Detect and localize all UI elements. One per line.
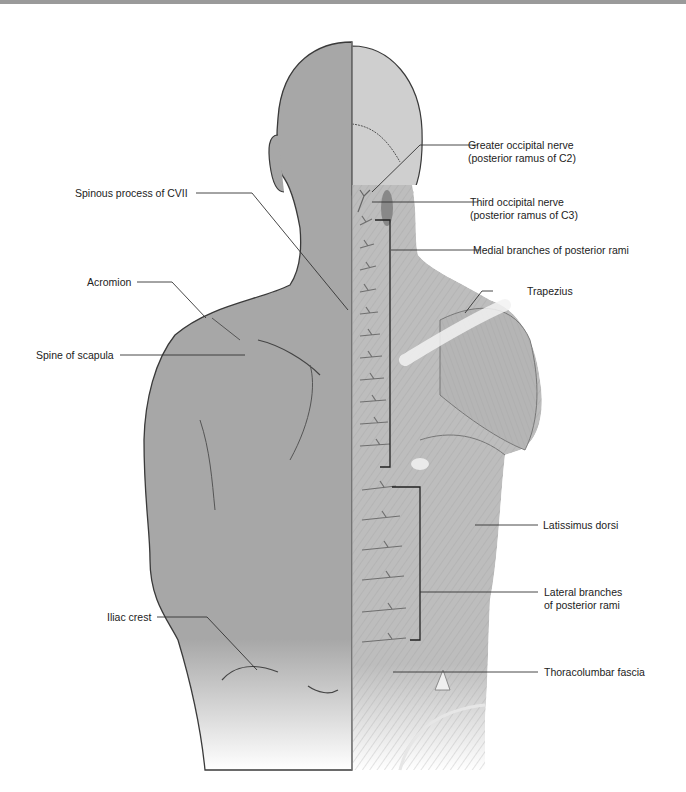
label-thoracolumbar-fascia: Thoracolumbar fascia [544,666,645,679]
label-greater-occipital-nerve: Greater occipital nerve (posterior ramus… [468,139,576,165]
label-latissimus-dorsi: Latissimus dorsi [543,519,618,532]
label-trapezius: Trapezius [527,285,573,298]
label-spine-of-scapula: Spine of scapula [36,349,114,362]
label-third-occipital-nerve: Third occipital nerve (posterior ramus o… [470,196,578,222]
label-lateral-branches: Lateral branches of posterior rami [544,586,622,612]
label-medial-branches: Medial branches of posterior rami [473,244,629,257]
label-acromion: Acromion [87,276,131,289]
label-spinous-process-cvii: Spinous process of CVII [75,187,188,200]
label-iliac-crest: Iliac crest [107,611,151,624]
